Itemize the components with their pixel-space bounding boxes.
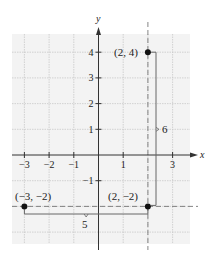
vertical-distance-label: 6 xyxy=(162,123,168,135)
data-point xyxy=(145,49,151,55)
x-tick-label: −3 xyxy=(19,159,30,170)
y-tick-label: 3 xyxy=(89,72,94,83)
grid-background xyxy=(12,34,190,244)
y-axis-label: y xyxy=(95,13,101,24)
point-label-2-neg2: (2, −2) xyxy=(108,190,138,203)
y-tick-label: −1 xyxy=(83,175,94,186)
y-tick-label: 1 xyxy=(89,124,94,135)
data-point xyxy=(145,203,151,209)
horizontal-distance-label: 5 xyxy=(82,218,88,230)
x-axis-arrow-icon xyxy=(190,153,198,158)
x-tick-label: −1 xyxy=(68,159,79,170)
data-point xyxy=(21,203,27,209)
y-axis-arrow-icon xyxy=(96,27,101,35)
x-tick-label: −2 xyxy=(44,159,55,170)
x-tick-label: 1 xyxy=(121,159,126,170)
y-tick-label: 4 xyxy=(89,47,94,58)
x-axis-label: x xyxy=(199,149,205,160)
x-tick-label: 3 xyxy=(170,159,175,170)
point-label-2-4: (2, 4) xyxy=(114,46,138,59)
y-tick-label: 2 xyxy=(89,98,94,109)
coordinate-plane: x y −3−2−1134321−1 6 5 (2, 4) (−3, −2) (… xyxy=(0,0,212,256)
point-label-neg3-neg2: (−3, −2) xyxy=(15,190,52,203)
